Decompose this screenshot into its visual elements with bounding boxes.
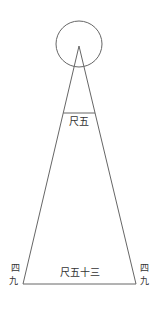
right-side-label-bottom: 九 [140, 276, 149, 286]
upper-width-label: 尺五 [69, 116, 89, 127]
left-side-line [23, 46, 79, 284]
diagram-canvas: 尺五 尺五十三 四 九 四 九 [0, 0, 162, 311]
left-side-label-bottom: 九 [9, 276, 18, 286]
top-circle [56, 21, 102, 67]
base-width-label: 尺五十三 [60, 266, 100, 278]
right-side-label-top: 四 [140, 263, 149, 273]
left-side-label-top: 四 [11, 263, 20, 273]
right-side-line [79, 46, 136, 284]
